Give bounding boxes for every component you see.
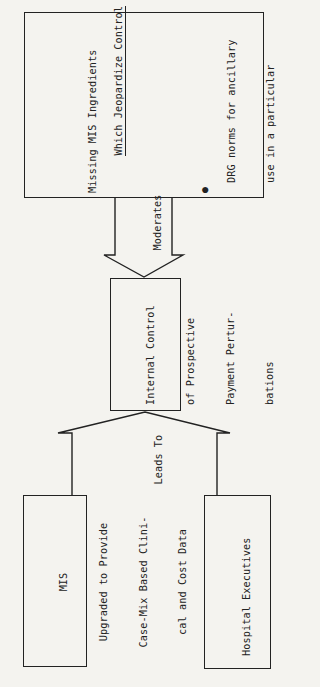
hospital-executives-box: Hospital Executives Tracking Costs and R…: [204, 495, 271, 669]
moderates-label: Moderates: [138, 194, 164, 263]
mis-upgraded-box: MIS Upgraded to Provide Case-Mix Based C…: [23, 495, 87, 667]
internal-control-box: Internal Control of Prospective Payment …: [110, 278, 181, 411]
missing-ingredients-title: Missing MIS Ingredients Which Jeopardize…: [59, 19, 139, 193]
missing-ingredients-box: Missing MIS Ingredients Which Jeopardize…: [24, 12, 264, 198]
leads-to-label: Leads To: [139, 435, 165, 497]
bullet-icon: ●: [198, 183, 277, 193]
missing-item-drg-norms: ● DRG norms for ancillary use in a parti…: [198, 19, 277, 193]
